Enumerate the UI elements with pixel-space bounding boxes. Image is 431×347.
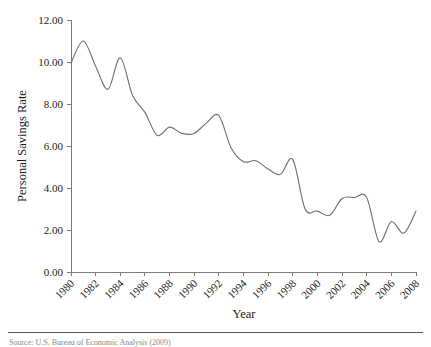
- y-axis-tick-label: 10.00: [38, 56, 63, 68]
- x-axis-tick-label: 2002: [323, 277, 347, 301]
- y-axis-tick-labels: 0.002.004.006.008.0010.0012.00: [38, 14, 63, 278]
- personal-savings-rate-line-chart: 0.002.004.006.008.0010.0012.00 198019821…: [0, 0, 431, 322]
- x-axis-tick-label: 1980: [52, 277, 76, 301]
- x-axis-tick-label: 1992: [200, 277, 224, 301]
- x-axis-tick-label: 2006: [373, 277, 397, 301]
- y-axis-title: Personal Savings Rate: [15, 90, 29, 202]
- y-axis: 0.002.004.006.008.0010.0012.00: [38, 14, 71, 278]
- y-axis-tick-label: 0.00: [44, 266, 64, 278]
- footer-divider: [8, 332, 423, 333]
- x-axis: 1980198219841986198819901992199419961998…: [52, 272, 421, 301]
- x-axis-tick-label: 1986: [126, 277, 150, 301]
- data-series-personal-savings-rate: [71, 41, 416, 242]
- y-axis-tick-label: 2.00: [44, 224, 64, 236]
- x-axis-tick-label: 1996: [250, 277, 274, 301]
- y-axis-tick-label: 12.00: [38, 14, 63, 26]
- x-axis-tick-label: 2000: [299, 277, 323, 301]
- x-axis-tick-label: 2004: [348, 277, 372, 301]
- chart-plot-area: 0.002.004.006.008.0010.0012.00 198019821…: [0, 0, 431, 322]
- source-note: Source: U.S. Bureau of Economic Analysis…: [9, 338, 309, 347]
- y-axis-ticks: [67, 20, 71, 272]
- y-axis-tick-label: 6.00: [44, 140, 64, 152]
- x-axis-tick-label: 1990: [176, 277, 200, 301]
- x-axis-tick-label: 1984: [102, 277, 126, 301]
- x-axis-tick-labels: 1980198219841986198819901992199419961998…: [52, 277, 421, 301]
- y-axis-tick-label: 8.00: [44, 98, 64, 110]
- x-axis-tick-label: 1988: [151, 277, 175, 301]
- x-axis-tick-label: 1994: [225, 277, 249, 301]
- x-axis-title: Year: [232, 307, 256, 321]
- x-axis-tick-label: 1982: [77, 277, 101, 301]
- x-axis-ticks: [71, 272, 416, 276]
- y-axis-tick-label: 4.00: [44, 182, 64, 194]
- x-axis-tick-label: 2008: [397, 277, 421, 301]
- x-axis-tick-label: 1998: [274, 277, 298, 301]
